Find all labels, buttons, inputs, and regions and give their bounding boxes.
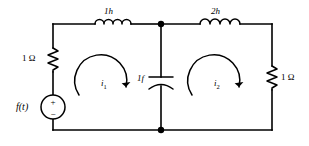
inductor-right-coil: [200, 19, 240, 24]
mesh-current-right-label: i2: [214, 79, 220, 90]
source-minus-sign: −: [51, 110, 56, 119]
mesh-current-left-arrowhead: [122, 82, 131, 87]
inductor-right-label: 2h: [211, 7, 220, 16]
source-plus-sign: +: [51, 98, 56, 107]
circuit-diagram: 1h 2h 1 Ω 1 Ω 1f f(t) + − i1 i2: [0, 0, 309, 146]
resistor-right-zigzag: [267, 66, 277, 90]
junction-node-top: [158, 21, 164, 27]
mesh-current-left-subscript: 1: [104, 83, 107, 90]
resistor-left-label: 1 Ω: [22, 54, 35, 63]
circuit-schematic-canvas: [0, 0, 309, 146]
mesh-current-left-label: i1: [101, 79, 107, 90]
resistor-left-zigzag: [48, 48, 58, 72]
inductor-left-coil: [95, 20, 131, 25]
capacitor-label: 1f: [137, 74, 144, 83]
voltage-source-label: f(t): [16, 102, 28, 112]
junction-node-bottom: [158, 127, 164, 133]
mesh-current-right-arrowhead: [235, 82, 244, 87]
resistor-right-label: 1 Ω: [281, 73, 294, 82]
inductor-left-label: 1h: [104, 7, 113, 16]
mesh-current-right-subscript: 2: [217, 83, 220, 90]
